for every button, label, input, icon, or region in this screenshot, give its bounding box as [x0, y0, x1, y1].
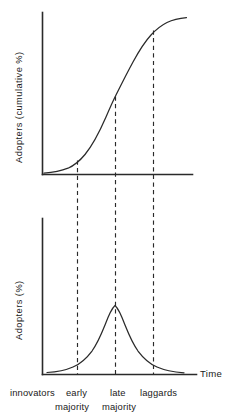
segment-label-early: early	[66, 387, 87, 398]
segment-label-innovators: innovators	[10, 387, 55, 398]
lower-chart: Adopters (%) Time	[14, 219, 222, 380]
lower-x-axis-label: Time	[200, 368, 222, 379]
upper-y-axis-label: Adopters (cumulative %)	[14, 51, 24, 163]
lower-y-axis-label: Adopters (%)	[14, 280, 24, 340]
segment-labels: innovators early late laggards majority …	[10, 387, 177, 412]
adopter-curves-figure: Adopters (cumulative %) Adopters (%) Tim…	[0, 0, 233, 418]
segment-dividers	[78, 31, 154, 375]
upper-chart: Adopters (cumulative %)	[14, 13, 193, 175]
segment-label-early-majority-line2: majority	[55, 401, 89, 412]
segment-label-laggards: laggards	[140, 387, 177, 398]
segment-label-late: late	[110, 387, 126, 398]
segment-label-late-majority-line2: majority	[102, 401, 136, 412]
figure-canvas: Adopters (cumulative %) Adopters (%) Tim…	[0, 0, 233, 418]
